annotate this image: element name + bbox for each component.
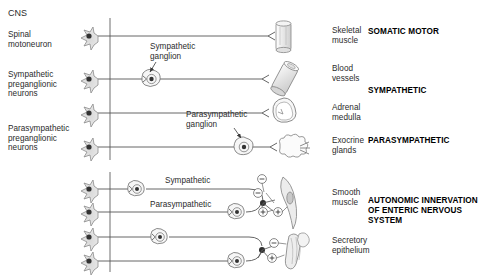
pathway-enteric-parasympathetic-secretory bbox=[81, 252, 261, 275]
label-sympathetic-preganglionic-neurons: Sympathetic preganglionic neurons bbox=[8, 70, 57, 99]
pathway-sympathetic-vessels bbox=[81, 60, 300, 98]
adrenal-medulla-icon bbox=[273, 98, 296, 122]
callout-leader-parasympathetic-ganglion bbox=[234, 128, 241, 138]
label-adrenal-medulla: Adrenal medulla bbox=[332, 103, 361, 122]
excitatory-sign-icon bbox=[259, 208, 268, 217]
sympathetic-ganglion-icon bbox=[128, 180, 144, 195]
parasympathetic-ganglion-icon bbox=[228, 203, 244, 218]
neuron-soma bbox=[81, 104, 98, 127]
smooth-muscle-icon bbox=[281, 177, 297, 229]
neuron-soma bbox=[81, 252, 98, 275]
enteric-smooth-muscle-plexus bbox=[254, 175, 297, 229]
label-spinal-motoneuron: Spinal motoneuron bbox=[8, 30, 52, 49]
label-skeletal-muscle: Skeletal muscle bbox=[332, 26, 361, 45]
skeletal-muscle-icon bbox=[276, 21, 291, 53]
autonomic-nervous-system-diagram: CNS Spinal motoneuron Sympathetic pregan… bbox=[0, 0, 495, 279]
inhibitory-sign-icon bbox=[258, 175, 267, 184]
parasympathetic-ganglion-icon bbox=[234, 137, 253, 155]
blood-vessels-icon bbox=[269, 60, 299, 98]
neuron-soma bbox=[81, 203, 98, 226]
label-secretory-epithelium: Secretory epithelium bbox=[332, 236, 370, 255]
inhibitory-sign-icon bbox=[270, 239, 279, 248]
pathway-label-parasympathetic: Parasympathetic bbox=[150, 200, 211, 210]
excitatory-sign-icon bbox=[268, 254, 277, 263]
label-exocrine-glands: Exocrine glands bbox=[332, 136, 364, 155]
heading-autonomic-innervation-enteric: AUTONOMIC INNERVATION OF ENTERIC NERVOUS… bbox=[368, 196, 478, 227]
heading-sympathetic: SYMPATHETIC bbox=[368, 86, 427, 96]
excitatory-sign-icon bbox=[274, 208, 283, 217]
label-parasympathetic-preganglionic-neurons: Parasympathetic preganglionic neurons bbox=[8, 124, 69, 153]
label-smooth-muscle: Smooth muscle bbox=[332, 188, 360, 207]
secretory-epithelium-icon bbox=[285, 233, 309, 269]
parasympathetic-ganglion-icon bbox=[228, 252, 244, 267]
enteric-secretory-plexus bbox=[258, 233, 309, 269]
heading-parasympathetic: PARASYMPATHETIC bbox=[368, 136, 450, 146]
sympathetic-ganglion-icon bbox=[142, 69, 160, 86]
cns-label: CNS bbox=[8, 8, 27, 18]
exocrine-glands-icon bbox=[280, 134, 311, 157]
heading-somatic-motor: SOMATIC MOTOR bbox=[368, 27, 439, 37]
neuron-soma bbox=[81, 180, 98, 203]
callout-parasympathetic-ganglion: Parasympathetic ganglion bbox=[186, 110, 247, 129]
neuron-soma bbox=[81, 70, 98, 93]
callout-sympathetic-ganglion: Sympathetic ganglion bbox=[150, 42, 195, 61]
pathway-parasympathetic-exocrine bbox=[81, 134, 310, 161]
label-blood-vessels: Blood vessels bbox=[332, 64, 359, 83]
sympathetic-ganglion-icon bbox=[151, 228, 167, 243]
neuron-soma bbox=[81, 228, 98, 251]
inhibitory-sign-icon bbox=[254, 189, 263, 198]
neuron-soma bbox=[81, 138, 98, 161]
pathway-enteric-sympathetic-secretory bbox=[81, 228, 262, 251]
pathway-label-sympathetic: Sympathetic bbox=[165, 176, 210, 186]
neuron-soma bbox=[81, 27, 98, 50]
